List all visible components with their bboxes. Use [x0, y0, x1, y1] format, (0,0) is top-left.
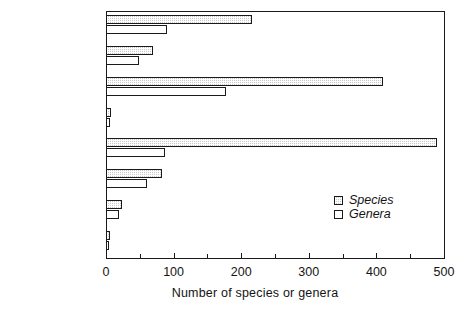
bar-vascular-plants-species	[106, 77, 383, 86]
x-tick-label-100: 100	[163, 266, 184, 279]
bar-insects-genera	[106, 148, 165, 157]
bar-chart: LichensMossesVascular plantsTreesInsects…	[0, 0, 464, 313]
x-axis-title: Number of species or genera	[0, 287, 464, 300]
bar-trees-genera	[106, 118, 110, 127]
category-label-column: LichensMossesVascular plantsTreesInsects…	[0, 0, 106, 313]
bar-mosses-species	[106, 46, 153, 55]
x-tick-minor-150	[207, 254, 208, 259]
x-tick-minor-50	[140, 254, 141, 259]
bar-fish-species	[106, 231, 110, 240]
legend-item-species: Species	[334, 194, 393, 207]
bar-mammals-species	[106, 200, 122, 209]
legend-label-species: Species	[349, 194, 393, 207]
x-tick-minor-250	[275, 254, 276, 259]
bar-mosses-genera	[106, 56, 139, 65]
legend-label-genera: Genera	[349, 208, 391, 221]
bar-land-birds-genera	[106, 179, 147, 188]
x-tick-major-0	[106, 253, 107, 259]
bar-lichens-species	[106, 15, 252, 24]
genera-swatch-icon	[334, 210, 343, 219]
x-tick-minor-450	[410, 254, 411, 259]
x-tick-major-200	[241, 253, 242, 259]
x-tick-major-300	[309, 253, 310, 259]
x-tick-major-500	[444, 253, 445, 259]
x-tick-minor-350	[343, 254, 344, 259]
chart-legend: SpeciesGenera	[334, 194, 393, 222]
x-tick-major-400	[376, 253, 377, 259]
x-tick-label-500: 500	[434, 266, 455, 279]
axis-line-right	[444, 11, 445, 259]
species-swatch-icon	[334, 196, 343, 205]
bar-insects-species	[106, 138, 437, 147]
legend-item-genera: Genera	[334, 208, 393, 221]
x-tick-label-400: 400	[366, 266, 387, 279]
bar-fish-genera	[106, 241, 109, 250]
bar-vascular-plants-genera	[106, 87, 226, 96]
axis-line-top	[106, 11, 445, 12]
bar-trees-species	[106, 108, 111, 117]
bar-land-birds-species	[106, 169, 162, 178]
x-tick-label-300: 300	[298, 266, 319, 279]
x-tick-major-100	[174, 253, 175, 259]
bar-lichens-genera	[106, 25, 167, 34]
x-tick-label-200: 200	[231, 266, 252, 279]
x-tick-label-0: 0	[103, 266, 110, 279]
bar-mammals-genera	[106, 210, 119, 219]
